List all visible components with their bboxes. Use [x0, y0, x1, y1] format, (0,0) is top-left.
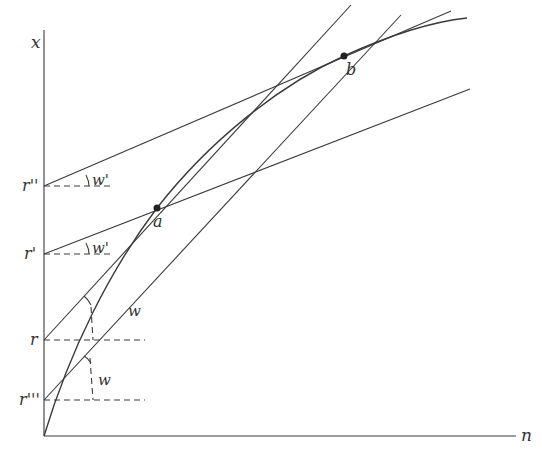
label-w-line: w	[128, 302, 141, 320]
angle-arc-w-prime-lower	[86, 243, 89, 254]
label-r-double-prime: r''	[22, 176, 38, 195]
label-w-prime-upper: w'	[92, 171, 109, 189]
point-b	[341, 53, 348, 60]
angle-arc-w-upper	[84, 296, 91, 305]
label-w-prime-lower: w'	[92, 239, 109, 257]
label-r-triple-prime: r'''	[19, 390, 40, 409]
diagram-canvas: x n r'' r' r r''' a b w' w' w w	[0, 0, 542, 455]
economics-diagram: x n r'' r' r r''' a b w' w' w w	[0, 0, 542, 455]
y-axis-label: x	[31, 32, 41, 52]
dash-vertical-lower	[90, 358, 93, 400]
line-r	[44, 5, 351, 340]
label-r: r	[30, 330, 39, 349]
label-w-angle: w	[98, 371, 111, 389]
label-point-a: a	[153, 212, 163, 231]
label-point-b: b	[346, 60, 356, 79]
label-r-prime: r'	[24, 244, 36, 263]
x-axis-label: n	[521, 425, 532, 445]
point-a	[154, 205, 161, 212]
angle-arc-w-prime-upper	[86, 175, 89, 186]
